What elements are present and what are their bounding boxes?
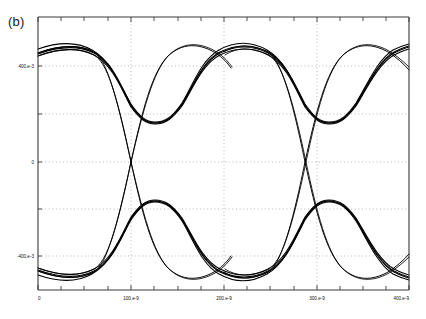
y-tick-label-0: 0 (31, 160, 34, 165)
x-tick-label-400n: 400.e-9 (393, 296, 409, 301)
eye-diagram-figure: (b) (0, 0, 426, 319)
plot-canvas: 0 100.e-9 200.e-9 300.e-9 400.e-9 400.e-… (0, 0, 426, 319)
y-tick-label-400m: 400.e-3 (18, 64, 34, 69)
x-tick-label-300n: 300.e-9 (309, 296, 325, 301)
plot-background (38, 17, 409, 290)
x-tick-label-0: 0 (38, 296, 41, 301)
x-tick-label-100n: 100.e-9 (123, 296, 139, 301)
y-tick-label-neg400m: -400.e-3 (17, 254, 35, 259)
x-tick-label-200n: 200.e-9 (216, 296, 232, 301)
